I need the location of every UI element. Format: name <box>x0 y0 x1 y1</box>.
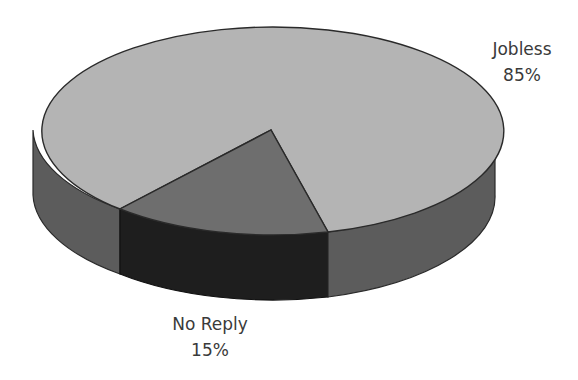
label-noreply-name: No Reply <box>150 311 270 337</box>
label-noreply-pct: 15% <box>150 337 270 363</box>
label-jobless-name: Jobless <box>472 36 572 62</box>
label-noreply: No Reply 15% <box>150 311 270 363</box>
label-jobless: Jobless 85% <box>472 36 572 88</box>
label-jobless-pct: 85% <box>472 62 572 88</box>
